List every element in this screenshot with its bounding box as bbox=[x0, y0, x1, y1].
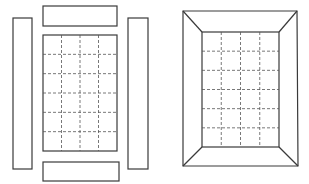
miter-line-top-right bbox=[279, 11, 297, 32]
diagram-canvas bbox=[0, 0, 309, 184]
top-strip bbox=[43, 6, 117, 26]
bottom-strip bbox=[43, 162, 119, 181]
miter-line-top-left bbox=[183, 11, 202, 32]
inner-panel-grid bbox=[202, 32, 279, 147]
assembled-mitered-frame bbox=[183, 11, 298, 166]
exploded-frame bbox=[13, 6, 148, 181]
right-strip bbox=[128, 18, 148, 169]
miter-line-bottom-left bbox=[183, 147, 202, 166]
miter-line-bottom-right bbox=[279, 147, 298, 166]
left-strip bbox=[13, 18, 32, 169]
center-panel-grid bbox=[43, 35, 117, 151]
